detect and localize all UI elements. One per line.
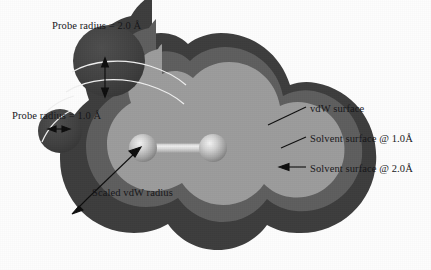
solvent-surface-2-label: Solvent surface @ 2.0Å bbox=[310, 163, 413, 174]
atom-right bbox=[199, 134, 227, 162]
solvent-surface-1-label: Solvent surface @ 1.0Å bbox=[310, 133, 413, 144]
figure-page: { "figure": { "title": "Molecular surfac… bbox=[0, 0, 431, 270]
atom-left bbox=[129, 134, 157, 162]
probe-radius-1-label: Probe radius = 1.0 Å bbox=[12, 110, 101, 121]
probe-radius-2-label: Probe radius = 2.0 Å bbox=[52, 20, 141, 31]
vdw-surface-label: vdW surface bbox=[310, 103, 364, 114]
scaled-vdw-radius-label: Scaled vdW radius bbox=[92, 186, 178, 199]
